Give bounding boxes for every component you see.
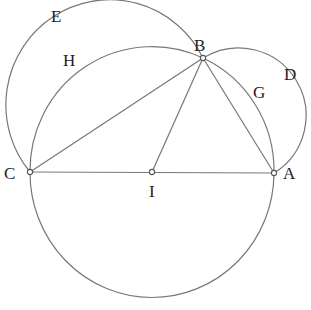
point-C [27, 169, 32, 174]
segment-BA [203, 58, 274, 173]
label-D: D [284, 65, 296, 84]
label-H: H [63, 51, 75, 70]
point-A [271, 170, 276, 175]
label-B: B [194, 36, 205, 55]
geometry-diagram: A B C I D E G H [0, 0, 311, 310]
label-C: C [4, 164, 15, 183]
point-B [200, 55, 205, 60]
point-I [149, 169, 154, 174]
arc-E [6, 0, 203, 172]
label-I: I [149, 182, 155, 201]
label-E: E [51, 7, 61, 26]
arc-H [30, 47, 203, 172]
label-G: G [253, 83, 265, 102]
label-A: A [283, 164, 296, 183]
